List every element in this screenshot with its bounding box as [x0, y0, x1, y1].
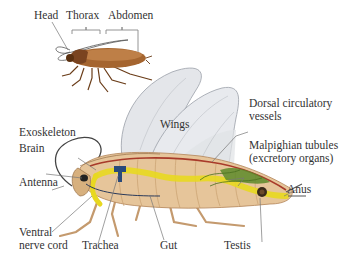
label-gut: Gut — [160, 239, 177, 252]
ventral-nerve-cord-leader — [52, 196, 92, 232]
label-ventral-nerve-cord-line2: nerve cord — [19, 239, 68, 252]
thorax-bracket — [72, 27, 100, 34]
label-head: Head — [34, 9, 58, 22]
label-antenna: Antenna — [19, 176, 58, 189]
small-cockroach-illustration — [52, 22, 152, 92]
label-abdomen: Abdomen — [108, 9, 153, 22]
label-wings: Wings — [160, 118, 190, 131]
label-brain: Brain — [19, 142, 45, 155]
label-testis: Testis — [224, 239, 251, 252]
label-anus: Anus — [287, 183, 311, 196]
label-exoskeleton: Exoskeleton — [19, 126, 76, 139]
label-dorsal-circulatory-line2: vessels — [249, 110, 282, 123]
label-trachea: Trachea — [82, 239, 119, 252]
label-thorax: Thorax — [66, 9, 99, 22]
label-ventral-nerve-cord-line1: Ventral — [19, 226, 52, 239]
label-dorsal-circulatory-line1: Dorsal circulatory — [249, 97, 332, 110]
label-malpighian-line1: Malpighian tubules — [249, 139, 338, 152]
label-malpighian-line2: (excretory organs) — [249, 152, 333, 165]
